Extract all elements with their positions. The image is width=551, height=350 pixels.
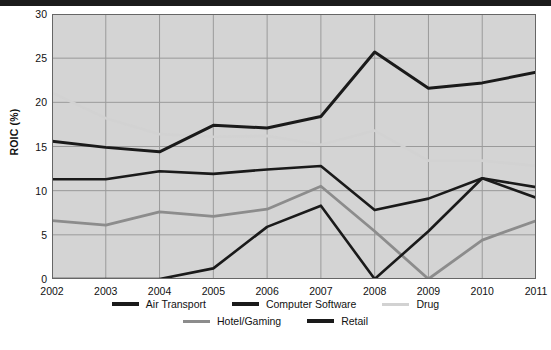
- legend-item[interactable]: Drug: [382, 298, 439, 310]
- plot-area: 051015202530 200220032004200520062007200…: [52, 14, 536, 279]
- y-axis-tick-label: 10: [35, 185, 47, 197]
- x-axis-tick-label: 2011: [525, 285, 548, 297]
- legend-item[interactable]: Computer Software: [232, 298, 356, 310]
- x-axis-tick-label: 2004: [148, 285, 171, 297]
- roic-line-chart: ROIC (%) 051015202530 200220032004200520…: [0, 6, 551, 350]
- x-axis-tick-label: 2008: [363, 285, 386, 297]
- y-axis-tick-label: 5: [41, 229, 47, 241]
- legend-swatch-line-icon: [307, 319, 334, 323]
- chart-legend: Air TransportComputer SoftwareDrug Hotel…: [0, 298, 551, 332]
- x-axis-tick-label: 2009: [417, 285, 440, 297]
- y-axis-tick-label: 25: [35, 52, 47, 64]
- x-axis-tick-label: 2005: [202, 285, 225, 297]
- legend-swatch-line-icon: [382, 303, 409, 306]
- legend-item[interactable]: Hotel/Gaming: [183, 315, 281, 327]
- legend-swatch-line-icon: [183, 320, 210, 323]
- y-axis-tick-label: 0: [41, 273, 47, 285]
- y-axis-tick-label: 15: [35, 141, 47, 153]
- y-axis-title: ROIC (%): [8, 92, 20, 172]
- x-axis-tick-label: 2006: [255, 285, 278, 297]
- legend-label: Computer Software: [266, 298, 356, 310]
- legend-label: Air Transport: [146, 298, 206, 310]
- legend-item[interactable]: Retail: [307, 315, 368, 327]
- legend-swatch-line-icon: [232, 302, 259, 306]
- legend-row-primary: Air TransportComputer SoftwareDrug: [0, 298, 551, 310]
- y-axis-tick-label: 20: [35, 96, 47, 108]
- y-axis-tick-label: 30: [35, 8, 47, 20]
- legend-label: Drug: [416, 298, 439, 310]
- x-axis-tick-label: 2007: [309, 285, 332, 297]
- legend-item[interactable]: Air Transport: [112, 298, 206, 310]
- x-axis-tick-label: 2003: [94, 285, 117, 297]
- x-axis-tick-label: 2010: [471, 285, 494, 297]
- legend-row-secondary: Hotel/GamingRetail: [0, 315, 551, 327]
- x-axis-tick-label: 2002: [40, 285, 63, 297]
- plot-svg: [52, 14, 536, 279]
- legend-label: Retail: [341, 315, 368, 327]
- legend-swatch-line-icon: [112, 302, 139, 306]
- legend-label: Hotel/Gaming: [217, 315, 281, 327]
